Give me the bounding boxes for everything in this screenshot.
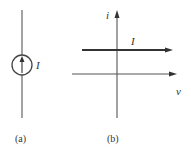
figure-a-current-source: I (a) bbox=[12, 10, 41, 145]
x-axis-arrowhead-icon bbox=[169, 72, 177, 77]
source-label: I bbox=[35, 59, 41, 71]
diagram-canvas: I (a) i I v (b) bbox=[0, 0, 191, 151]
line-label: I bbox=[130, 35, 136, 47]
figure-b-iv-plot: i I v (b) bbox=[72, 9, 181, 145]
x-axis-label: v bbox=[176, 85, 181, 97]
caption-a: (a) bbox=[15, 133, 26, 145]
source-arrowhead-icon bbox=[20, 56, 25, 62]
y-axis-label: i bbox=[106, 9, 109, 21]
caption-b: (b) bbox=[107, 133, 119, 145]
y-axis-arrowhead-icon bbox=[115, 10, 120, 18]
characteristic-arrowhead-icon bbox=[165, 48, 173, 53]
